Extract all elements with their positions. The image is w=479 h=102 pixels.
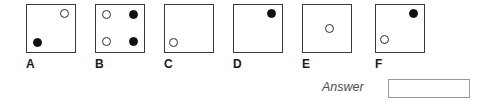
- filled-circle-icon: [129, 10, 138, 19]
- option-c[interactable]: C: [164, 4, 214, 53]
- open-circle-icon: [102, 10, 111, 19]
- answer-row: Answer: [322, 76, 472, 100]
- open-circle-icon: [102, 37, 111, 46]
- option-square: [302, 4, 352, 53]
- option-square: [95, 4, 145, 53]
- filled-circle-icon: [129, 37, 138, 46]
- option-letter-label: C: [164, 57, 173, 71]
- filled-circle-icon: [409, 9, 418, 18]
- option-d[interactable]: D: [233, 4, 283, 53]
- option-letter-label: A: [26, 57, 35, 71]
- option-letter-label: E: [302, 57, 310, 71]
- option-square: [375, 4, 425, 53]
- option-letter-label: B: [95, 57, 104, 71]
- option-square: [233, 4, 283, 53]
- option-square: [164, 4, 214, 53]
- option-letter-label: F: [375, 57, 383, 71]
- option-letter-label: D: [233, 57, 242, 71]
- option-square: [26, 4, 76, 53]
- answer-input[interactable]: [388, 79, 470, 98]
- open-circle-icon: [325, 24, 334, 33]
- open-circle-icon: [380, 35, 389, 44]
- open-circle-icon: [60, 9, 69, 18]
- option-f[interactable]: F: [375, 4, 425, 53]
- open-circle-icon: [169, 38, 178, 47]
- option-e[interactable]: E: [302, 4, 352, 53]
- filled-circle-icon: [267, 9, 276, 18]
- answer-label: Answer: [322, 80, 364, 95]
- option-b[interactable]: B: [95, 4, 145, 53]
- option-a[interactable]: A: [26, 4, 76, 53]
- filled-circle-icon: [33, 38, 42, 47]
